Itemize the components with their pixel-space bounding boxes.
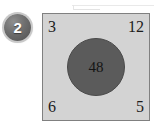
scan-artifact-line-long (72, 5, 154, 6)
corner-value-bottom-left: 6 (48, 99, 56, 115)
step-number-badge[interactable]: 2 (4, 14, 31, 41)
scan-artifact-tick (73, 5, 74, 10)
corner-value-bottom-right: 5 (136, 99, 144, 115)
corner-value-top-left: 3 (48, 19, 56, 35)
center-circle[interactable]: 48 (67, 38, 125, 96)
center-value-label: 48 (89, 60, 104, 75)
corner-value-top-right: 12 (128, 19, 144, 35)
scan-artifact-line-short (74, 9, 100, 10)
number-square-panel[interactable]: 3 12 6 5 48 (42, 13, 150, 121)
step-number-label: 2 (14, 20, 22, 35)
